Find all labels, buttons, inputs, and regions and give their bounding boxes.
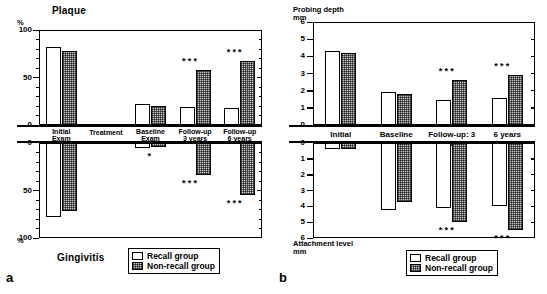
attachment-level-tick — [307, 238, 313, 239]
probing-depth-y-tick-label: 0 — [287, 120, 305, 129]
plaque-minor-tick — [36, 87, 40, 88]
recall-swatch-icon — [132, 252, 143, 260]
plaque-bar-nonrecall — [240, 61, 255, 125]
panel-b-letter: b — [279, 270, 287, 285]
panel-a-category-label: InitialExam — [39, 128, 84, 143]
probing-depth-y-tick-label: 3 — [287, 69, 305, 78]
plaque-minor-tick-right — [259, 106, 263, 107]
probing-depth-tick-right — [531, 90, 535, 91]
gingivitis-major-tick-right — [257, 190, 262, 191]
plaque-minor-tick-right — [259, 115, 263, 116]
category-line-1: Follow-up — [223, 128, 256, 135]
plaque-minor-tick — [36, 96, 40, 97]
gingivitis-major-tick — [33, 190, 39, 191]
attachment-level-y-tick-label: 2 — [287, 170, 305, 179]
probing-depth-tick-right — [531, 39, 535, 40]
probing-depth-tick-right — [531, 107, 535, 108]
probing-depth-bar-recall — [325, 51, 340, 125]
gingivitis-bar-recall — [135, 143, 150, 148]
plaque-bar-nonrecall — [62, 51, 77, 125]
plaque-significance-marker: *** — [227, 47, 244, 57]
probing-depth-significance-marker: *** — [439, 66, 456, 76]
probing-depth-y-tick-label: 2 — [287, 86, 305, 95]
probing-depth-y-tick-label: 4 — [287, 51, 305, 60]
legend-label-nonrecall: Non-recall group — [425, 263, 493, 273]
probing-depth-bar-recall — [436, 100, 451, 125]
plaque-bar-recall — [135, 104, 150, 125]
gingivitis-bar-recall — [46, 143, 61, 217]
panel-a-category-label: BaselineExam — [128, 128, 173, 143]
gingivitis-major-tick — [33, 238, 39, 239]
gingivitis-minor-tick-right — [259, 171, 263, 172]
gingivitis-significance-marker: *** — [227, 198, 244, 208]
gingivitis-bar-nonrecall — [240, 143, 255, 195]
attachment-level-y-tick-label: 4 — [287, 201, 305, 210]
gingivitis-minor-tick — [36, 162, 40, 163]
gingivitis-minor-tick — [36, 200, 40, 201]
panel-b-category-label: Initial — [313, 130, 369, 139]
attachment-level-tick-right — [531, 158, 535, 159]
gingivitis-significance-marker: * — [148, 151, 154, 161]
gingivitis-minor-tick — [36, 171, 40, 172]
attachment-level-tick-right — [531, 222, 535, 223]
legend-entry-nonrecall: Non-recall group — [132, 261, 215, 271]
category-line-2: Exam — [52, 135, 71, 142]
attachment-level-bar-nonrecall — [341, 143, 356, 149]
gingivitis-minor-tick-right — [259, 181, 263, 182]
attachment-level-tick — [307, 190, 313, 191]
nonrecall-swatch-icon — [132, 262, 143, 270]
category-line-2: 6 years — [228, 135, 252, 142]
probing-depth-tick-right — [531, 56, 535, 57]
plaque-minor-tick-right — [259, 96, 263, 97]
plaque-bar-recall — [224, 108, 239, 125]
attachment-level-tick-right — [531, 174, 535, 175]
gingivitis-significance-marker: *** — [182, 178, 199, 188]
probing-depth-tick — [307, 22, 313, 23]
plaque-major-tick — [33, 30, 39, 31]
probing-depth-tick — [307, 56, 313, 57]
legend-label-nonrecall: Non-recall group — [147, 261, 215, 271]
probing-depth-tick — [307, 73, 313, 74]
panel-a-category-label: Follow-up3 years — [173, 128, 218, 143]
attachment-level-tick — [307, 158, 313, 159]
plaque-minor-tick — [36, 49, 40, 50]
plaque-minor-tick-right — [259, 87, 263, 88]
plaque-minor-tick — [36, 115, 40, 116]
gingivitis-minor-tick-right — [259, 228, 263, 229]
gingivitis-bar-nonrecall — [151, 143, 166, 147]
probing-depth-bar-nonrecall — [452, 80, 467, 125]
probing-depth-tick — [307, 125, 313, 126]
probing-depth-bar-recall — [381, 92, 396, 125]
panel-a-category-label: Treatment — [84, 128, 129, 137]
panel-a-letter: a — [6, 270, 13, 285]
attachment-level-bar-nonrecall — [508, 143, 523, 230]
gingivitis-minor-tick-right — [259, 162, 263, 163]
gingivitis-y-tick-label-zero: 0 — [5, 138, 32, 147]
attachment-level-bar-recall — [325, 143, 340, 149]
legend-label-recall: Recall group — [425, 253, 476, 263]
panel-a-category-label: Follow-up6 years — [217, 128, 262, 143]
attachment-level-bar-nonrecall — [397, 143, 412, 202]
category-line-1: Follow-up — [179, 128, 212, 135]
legend-entry-recall: Recall group — [410, 253, 493, 263]
plaque-bar-recall — [46, 47, 61, 125]
plaque-major-tick-right — [257, 77, 262, 78]
attachment-level-y-tick-label: 5 — [287, 217, 305, 226]
panel-b-probing-attachment: Probing depth mm Attachment level mm b R… — [273, 0, 547, 294]
plaque-minor-tick-right — [259, 39, 263, 40]
attachment-level-bar-recall — [381, 143, 396, 210]
attachment-level-y-tick-label: 1 — [287, 154, 305, 163]
gingivitis-bar-nonrecall — [62, 143, 77, 211]
recall-swatch-icon — [410, 254, 421, 262]
category-line-1: Treatment — [89, 129, 122, 136]
gingivitis-minor-tick — [36, 181, 40, 182]
legend-label-recall: Recall group — [147, 251, 198, 261]
plaque-minor-tick — [36, 68, 40, 69]
plaque-bar-nonrecall — [151, 106, 166, 125]
legend-entry-nonrecall: Non-recall group — [410, 263, 493, 273]
plaque-bar-recall — [180, 107, 195, 125]
attachment-level-significance-marker: *** — [494, 233, 511, 243]
probing-depth-tick — [307, 107, 313, 108]
attachment-level-bar-nonrecall — [452, 143, 467, 222]
attachment-level-y-tick-label: 0 — [287, 138, 305, 147]
